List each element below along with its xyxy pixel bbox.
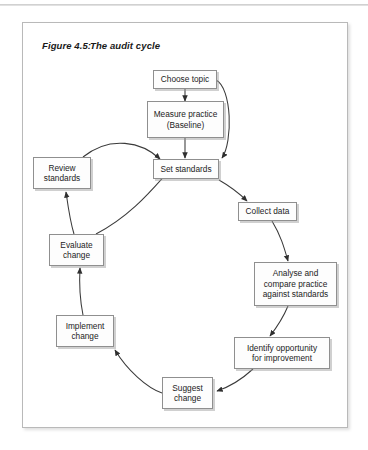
node-set-standards[interactable]: Set standards bbox=[153, 159, 219, 179]
node-choose-topic-label: Choose topic bbox=[161, 74, 209, 85]
node-analyse-compare-label: Analyse andcompare practiceagainst stand… bbox=[263, 268, 329, 300]
node-measure-practice[interactable]: Measure practice(Baseline) bbox=[147, 101, 224, 138]
node-measure-practice-label: Measure practice(Baseline) bbox=[154, 109, 218, 130]
node-evaluate-change[interactable]: Evaluatechange bbox=[49, 234, 104, 266]
node-identify-opportunity[interactable]: Identify opportunityfor improvement bbox=[234, 337, 330, 369]
node-identify-opportunity-label: Identify opportunityfor improvement bbox=[247, 343, 317, 364]
node-implement-change-label: Implementchange bbox=[66, 321, 105, 342]
node-suggest-change[interactable]: Suggestchange bbox=[162, 377, 213, 409]
node-analyse-compare[interactable]: Analyse andcompare practiceagainst stand… bbox=[254, 262, 337, 306]
figure-page: Figure 4.5:The audit cycle bbox=[0, 0, 368, 450]
figure-number: Figure 4.5: bbox=[42, 40, 90, 51]
node-implement-change[interactable]: Implementchange bbox=[56, 315, 114, 347]
node-suggest-change-label: Suggestchange bbox=[172, 383, 202, 404]
node-set-standards-label: Set standards bbox=[160, 164, 211, 175]
node-review-standards[interactable]: Reviewstandards bbox=[33, 157, 91, 189]
node-collect-data[interactable]: Collect data bbox=[238, 202, 297, 221]
top-rule bbox=[0, 4, 368, 6]
figure-title: The audit cycle bbox=[90, 40, 160, 51]
node-evaluate-change-label: Evaluatechange bbox=[60, 240, 92, 261]
node-collect-data-label: Collect data bbox=[246, 206, 290, 217]
node-review-standards-label: Reviewstandards bbox=[44, 163, 80, 184]
node-choose-topic[interactable]: Choose topic bbox=[153, 70, 217, 89]
figure-caption: Figure 4.5:The audit cycle bbox=[42, 40, 160, 51]
